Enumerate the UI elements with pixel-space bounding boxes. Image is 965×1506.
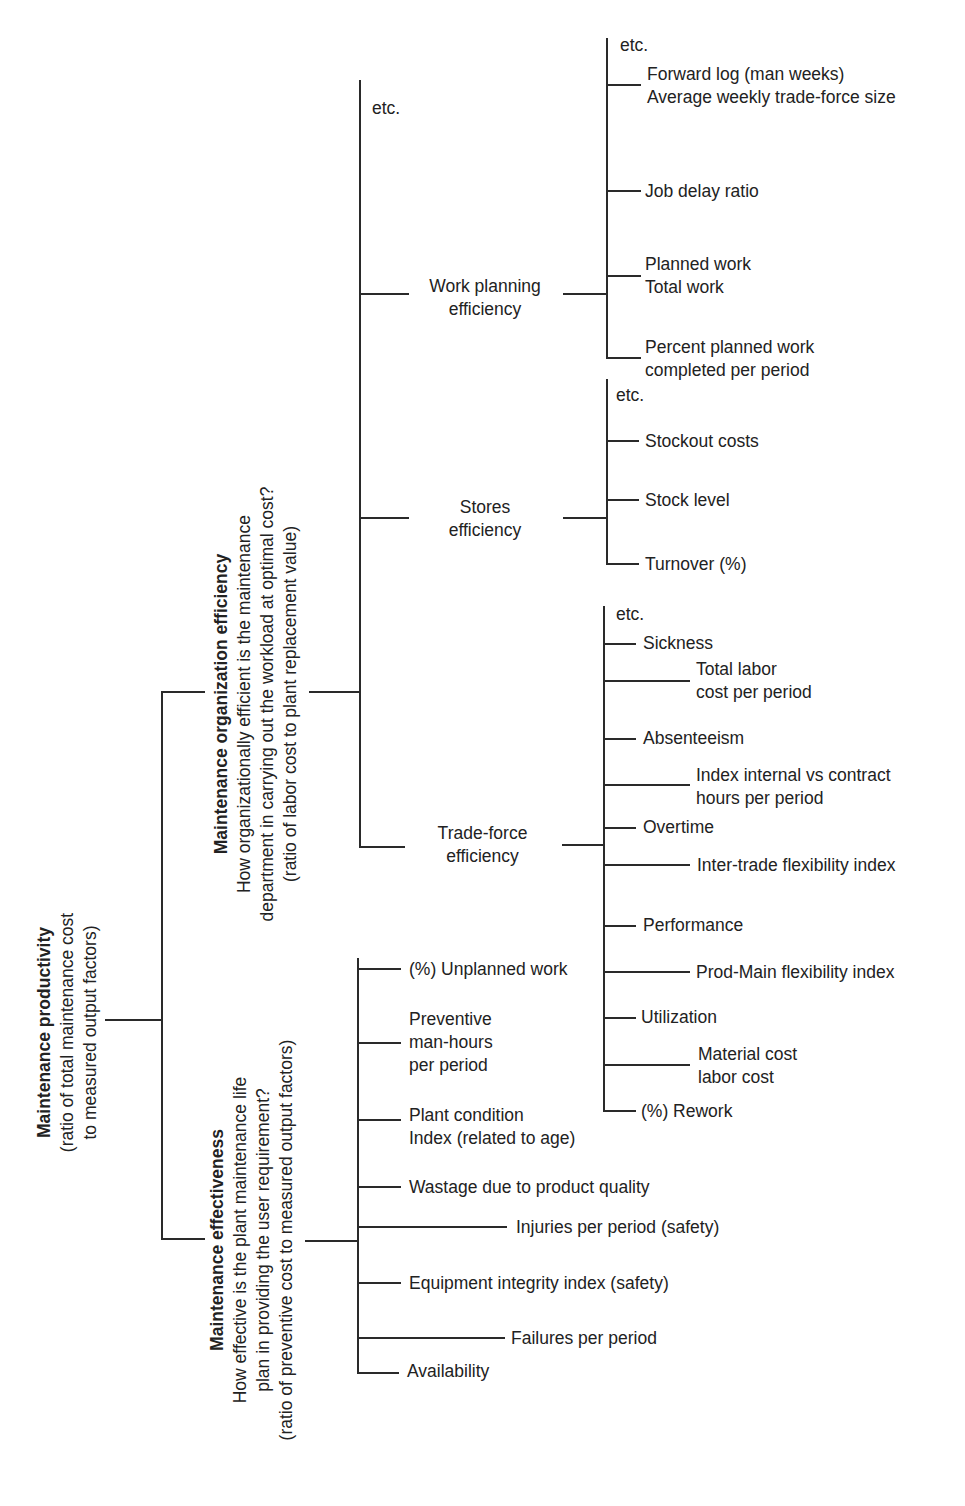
stores-out-connector: [563, 517, 608, 519]
trade-force-item-connector: [603, 643, 636, 645]
root-to-effectiveness-connector: [161, 1238, 205, 1240]
trade-force-item-connector: [603, 1064, 690, 1066]
trade-force-item-sickness: Sickness: [643, 632, 713, 655]
effectiveness-item-injuries: Injuries per period (safety): [516, 1216, 719, 1239]
work-planning-out-connector: [563, 293, 608, 295]
trade-force-in-connector: [359, 846, 405, 848]
work-planning-item-planned-work: Planned work Total work: [645, 253, 751, 299]
work-planning-item-connector: [606, 84, 641, 86]
effectiveness-title: Maintenance effectiveness: [206, 980, 229, 1500]
effectiveness-item-connector: [357, 968, 401, 970]
work-planning-item-etc: etc.: [620, 34, 648, 57]
work-planning-item-connector: [606, 275, 641, 277]
stores-item-connector: [606, 563, 639, 565]
stores-item-stockout-costs: Stockout costs: [645, 430, 759, 453]
trade-force-item-connector: [603, 827, 636, 829]
stores-item-connector: [606, 440, 639, 442]
stores-item-turnover: Turnover (%): [645, 553, 746, 576]
stores-item-stock-level: Stock level: [645, 489, 730, 512]
effectiveness-vertical: [357, 958, 359, 1374]
trade-force-item-overtime: Overtime: [643, 816, 714, 839]
trade-force-item-material-cost: Material cost labor cost: [698, 1043, 797, 1089]
org-efficiency-line-1: How organizationally efficient is the ma…: [233, 452, 256, 957]
trade-force-item-inter-trade: Inter-trade flexibility index: [697, 854, 895, 877]
root-subtitle-line-2: to measured output factors): [79, 858, 102, 1208]
root-branch-vertical: [161, 691, 163, 1240]
trade-force-item-connector: [603, 680, 690, 682]
effectiveness-line-2: plan in providing the user requirement?: [252, 980, 275, 1500]
trade-force-item-connector: [603, 864, 690, 866]
trade-force-item-connector: [603, 738, 636, 740]
effectiveness-item-connector: [357, 1186, 401, 1188]
org-efficiency-etc: etc.: [372, 97, 400, 120]
root-to-org-connector: [161, 691, 205, 693]
org-efficiency-vertical: [359, 80, 361, 848]
stores-vertical: [606, 379, 608, 565]
trade-force-item-absenteeism: Absenteeism: [643, 727, 744, 750]
trade-force-item-connector: [603, 1017, 636, 1019]
effectiveness-item-connector: [357, 1226, 507, 1228]
org-efficiency-line-3: (ratio of labor cost to plant replacemen…: [279, 452, 302, 957]
trade-force-item-utilization: Utilization: [641, 1006, 717, 1029]
effectiveness-item-preventive-man-hours: Preventive man-hours per period: [409, 1008, 493, 1077]
effectiveness-item-plant-condition: Plant condition Index (related to age): [409, 1104, 575, 1150]
effectiveness-item-wastage: Wastage due to product quality: [409, 1176, 650, 1199]
work-planning-vertical: [606, 38, 608, 359]
effectiveness-line-3: (ratio of preventive cost to measured ou…: [275, 980, 298, 1500]
effectiveness-node: Maintenance effectiveness How effective …: [206, 980, 302, 1500]
effectiveness-item-equipment-integrity: Equipment integrity index (safety): [409, 1272, 669, 1295]
effectiveness-connector: [305, 1240, 359, 1242]
trade-force-item-connector: [603, 784, 690, 786]
work-planning-item-connector: [606, 190, 641, 192]
stores-in-connector: [359, 517, 409, 519]
root-connector: [105, 1019, 163, 1021]
trade-force-out-connector: [562, 844, 605, 846]
effectiveness-item-unplanned-work: (%) Unplanned work: [409, 958, 568, 981]
work-planning-item-job-delay: Job delay ratio: [645, 180, 759, 203]
stores-item-etc: etc.: [616, 384, 644, 407]
trade-force-item-connector: [603, 971, 690, 973]
effectiveness-item-connector: [357, 1372, 399, 1374]
root-node-maintenance-productivity: Maintenance productivity (ratio of total…: [33, 858, 108, 1208]
org-efficiency-title: Maintenance organization efficiency: [210, 452, 233, 957]
org-efficiency-connector: [309, 691, 361, 693]
work-planning-item-percent-planned: Percent planned work completed per perio…: [645, 336, 814, 382]
trade-force-item-rework: (%) Rework: [641, 1100, 732, 1123]
org-efficiency-line-2: department in carrying out the workload …: [256, 452, 279, 957]
trade-force-item-etc: etc.: [616, 603, 644, 626]
trade-force-item-total-labor-cost: Total labor cost per period: [696, 658, 812, 704]
trade-force-item-connector: [603, 1110, 636, 1112]
trade-force-efficiency-label: Trade-force efficiency: [400, 822, 565, 868]
trade-force-item-index-internal: Index internal vs contract hours per per…: [696, 764, 891, 810]
org-efficiency-node: Maintenance organization efficiency How …: [210, 452, 306, 957]
effectiveness-item-failures: Failures per period: [511, 1327, 657, 1350]
work-planning-item-connector: [606, 357, 641, 359]
work-planning-item-forward-log: Forward log (man weeks) Average weekly t…: [647, 63, 896, 109]
effectiveness-item-connector: [357, 1042, 401, 1044]
effectiveness-item-connector: [357, 1337, 505, 1339]
trade-force-item-performance: Performance: [643, 914, 743, 937]
effectiveness-line-1: How effective is the plant maintenance l…: [229, 980, 252, 1500]
root-subtitle-line-1: (ratio of total maintenance cost: [56, 858, 79, 1208]
work-planning-efficiency-label: Work planning efficiency: [405, 275, 565, 321]
effectiveness-item-connector: [357, 1282, 401, 1284]
work-planning-in-connector: [359, 293, 409, 295]
root-title: Maintenance productivity: [33, 858, 56, 1208]
stores-efficiency-label: Stores efficiency: [405, 496, 565, 542]
effectiveness-item-availability: Availability: [407, 1360, 489, 1383]
stores-item-connector: [606, 499, 639, 501]
effectiveness-item-connector: [357, 1119, 401, 1121]
trade-force-item-prod-main: Prod-Main flexibility index: [696, 961, 894, 984]
trade-force-item-connector: [603, 925, 636, 927]
